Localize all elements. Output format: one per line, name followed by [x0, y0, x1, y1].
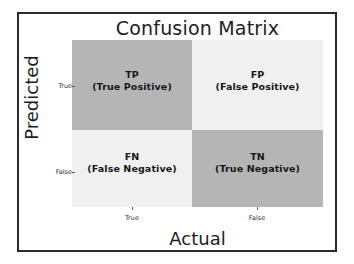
y-tick-mark [72, 172, 75, 173]
cell-full-name: (False Positive) [215, 81, 299, 93]
cell-full-name: (True Negative) [215, 163, 300, 175]
y-tick-mark [72, 86, 75, 87]
matrix-cell-true-negative: TN (True Negative) [192, 130, 323, 207]
x-tick-mark [132, 207, 133, 210]
y-tick-label-false: False [28, 168, 72, 176]
x-axis-ticks: True False [72, 207, 323, 229]
matrix-cell-false-negative: FN (False Negative) [72, 130, 192, 207]
cell-abbreviation: TN [215, 151, 300, 163]
cell-full-name: (False Negative) [87, 163, 176, 175]
cell-abbreviation: TP [92, 69, 172, 81]
x-tick-label-false: False [237, 214, 277, 222]
confusion-matrix-grid: TP (True Positive) FP (False Positive) F… [72, 40, 323, 207]
page-title: Confusion Matrix [72, 16, 323, 40]
x-tick-label-true: True [112, 214, 152, 222]
matrix-cell-false-positive: FP (False Positive) [192, 40, 323, 130]
x-axis-label: Actual [72, 228, 323, 249]
y-axis-label: Predicted [21, 28, 42, 168]
confusion-matrix-figure: Confusion Matrix TP (True Positive) FP (… [0, 0, 354, 264]
cell-abbreviation: FN [87, 151, 176, 163]
cell-full-name: (True Positive) [92, 81, 172, 93]
x-tick-mark [257, 207, 258, 210]
matrix-cell-true-positive: TP (True Positive) [72, 40, 192, 130]
cell-abbreviation: FP [215, 69, 299, 81]
